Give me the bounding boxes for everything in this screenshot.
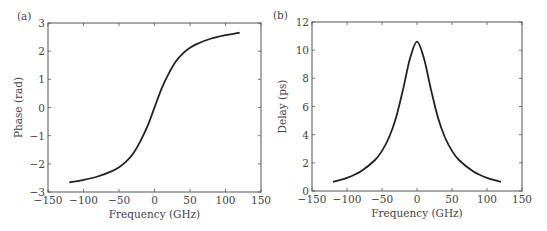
- y-tick-label: 2: [38, 45, 45, 57]
- y-tick-label: 12: [296, 16, 309, 28]
- y-tick-label: 3: [38, 17, 45, 29]
- y-tick-label: 0: [38, 102, 45, 114]
- figure: −150−100−50050100150−3−2−10123Frequency …: [0, 0, 547, 231]
- x-axis-label: Frequency (GHz): [109, 208, 200, 220]
- x-tick-label: −50: [108, 194, 130, 206]
- y-tick-label: 6: [302, 101, 309, 113]
- panel-label: (a): [17, 10, 31, 22]
- x-tick-label: 0: [151, 194, 158, 206]
- y-axis-label: Phase (rad): [12, 77, 24, 138]
- y-tick-label: 10: [296, 44, 309, 56]
- y-axis-label: Delay (ps): [276, 80, 288, 134]
- y-tick-label: 4: [302, 129, 309, 141]
- x-tick-label: −100: [69, 194, 98, 206]
- x-tick-label: 100: [477, 193, 497, 205]
- x-tick-label: 150: [251, 194, 271, 206]
- x-tick-label: −100: [333, 193, 362, 205]
- data-line: [333, 42, 501, 182]
- y-tick-label: 1: [38, 73, 45, 85]
- y-tick-label: −3: [30, 186, 45, 198]
- y-tick-label: 8: [302, 72, 309, 84]
- plot-frame: [312, 22, 522, 191]
- y-tick-label: −2: [30, 158, 45, 170]
- panel-label: (b): [273, 9, 288, 21]
- y-tick-label: 0: [302, 185, 309, 197]
- x-tick-label: 50: [183, 194, 196, 206]
- x-tick-label: 50: [445, 193, 458, 205]
- x-tick-label: 150: [512, 193, 532, 205]
- x-tick-label: 0: [414, 193, 421, 205]
- x-tick-label: 100: [215, 194, 235, 206]
- data-line: [69, 33, 239, 183]
- chart-panel-a: −150−100−50050100150−3−2−10123Frequency …: [12, 10, 271, 220]
- x-axis-label: Frequency (GHz): [371, 207, 462, 219]
- y-tick-label: −1: [30, 130, 45, 142]
- y-tick-label: 2: [302, 157, 309, 169]
- x-tick-label: −50: [371, 193, 393, 205]
- chart-panel-b: −150−100−50050100150024681012Frequency (…: [273, 9, 532, 219]
